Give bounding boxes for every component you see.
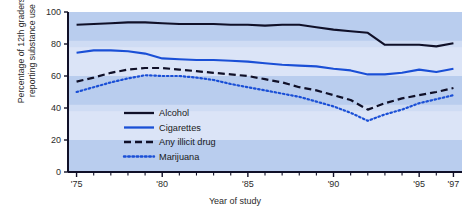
y-tick-label: 20 — [51, 135, 61, 145]
x-tick-label: '90 — [328, 179, 340, 189]
chart-figure: Percentage of 12th graders reporting sub… — [0, 0, 470, 208]
legend-label-any-illicit-drug: Any illicit drug — [159, 137, 216, 147]
y-tick-label: 60 — [51, 71, 61, 81]
background-bands — [68, 12, 462, 172]
y-tick-labels: 020406080100 — [46, 7, 61, 177]
plot-area: 020406080100 '75'80'85'90'95'97 AlcoholC… — [0, 0, 470, 208]
x-tick-labels: '75'80'85'90'95'97 — [71, 179, 460, 189]
line-chart-svg: 020406080100 '75'80'85'90'95'97 AlcoholC… — [0, 0, 470, 208]
x-tick-label: '97 — [448, 179, 460, 189]
y-tick-label: 100 — [46, 7, 61, 17]
x-tick-label: '85 — [242, 179, 254, 189]
x-tick-label: '75 — [71, 179, 83, 189]
legend-label-marijuana: Marijuana — [159, 152, 200, 162]
x-tick-label: '95 — [413, 179, 425, 189]
legend-label-alcohol: Alcohol — [159, 108, 189, 118]
y-tick-label: 80 — [51, 39, 61, 49]
y-tick-label: 0 — [56, 167, 61, 177]
legend-label-cigarettes: Cigarettes — [159, 123, 201, 133]
x-tick-label: '80 — [156, 179, 168, 189]
y-tick-label: 40 — [51, 103, 61, 113]
